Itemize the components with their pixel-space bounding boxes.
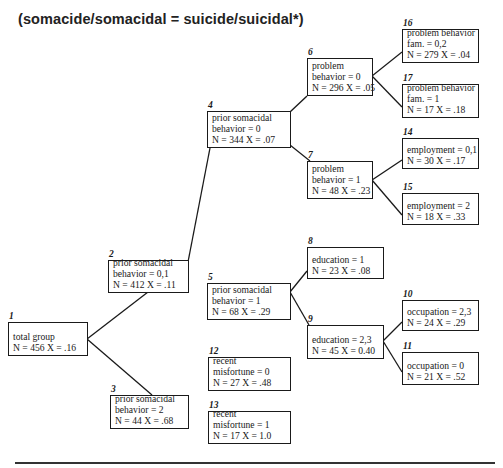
node-label: prior somacidal [115,393,184,404]
node-label: problem behavior [407,27,474,38]
edge-6-16 [372,52,402,76]
node-condition: behavior = 1 [312,174,368,185]
node-condition: occupation = 0 [407,360,474,371]
node-stats: N = 24 X = .29 [407,317,474,328]
edge-5-8 [290,271,307,292]
node-stats: N = 456 X = .16 [13,342,83,353]
node-condition: fam. = 0,2 [407,38,474,49]
node-stats: N = 296 X = .05 [312,82,368,93]
node-stats: N = 21 X = .52 [407,371,474,382]
node-number: 11 [403,341,412,351]
node-stats: N = 48 X = .23 [312,185,368,196]
node-stats: N = 30 X = .17 [407,155,474,166]
edge-5-9 [290,292,309,325]
node-condition: behavior = 2 [115,404,184,415]
node-stats: N = 17 X = 1.0 [213,430,286,441]
node-number: 10 [403,289,413,299]
node-condition: employment = 0,1 [407,144,474,155]
node-number: 9 [308,314,313,324]
edge-2-5 [188,280,207,296]
edge-9-11 [383,341,402,372]
node-label: prior somacidal [113,257,184,268]
node-number: 4 [208,100,213,110]
node-number: 6 [308,47,313,57]
node-condition: education = 2,3 [312,334,379,345]
bottom-rule [15,462,495,464]
node-stats: N = 18 X = .33 [407,211,474,222]
edge-6-17 [372,76,402,107]
node-stats: N = 68 X = .29 [212,306,286,317]
node-condition: employment = 2 [407,200,474,211]
node-label: problem [312,163,368,174]
node-number: 15 [403,182,413,192]
node-number: 5 [208,272,213,282]
node-stats: N = 412 X = .11 [113,279,184,290]
edge-4-6 [290,96,307,112]
tree-edges [0,0,503,468]
edge-1-3 [87,339,152,395]
edge-7-15 [372,180,402,215]
edge-9-10 [383,322,402,341]
node-condition: misfortune = 0 [213,366,286,377]
edge-2-4 [188,148,210,262]
node-stats: N = 344 X = .07 [212,134,286,145]
node-label: prior somacidal [212,112,286,123]
node-stats: N = 27 X = .48 [213,377,286,388]
node-condition: behavior = 0,1 [113,268,184,279]
node-condition: education = 1 [312,254,379,265]
node-condition: behavior = 0 [212,123,286,134]
edge-7-14 [372,160,402,180]
node-condition: misfortune = 1 [213,419,286,430]
node-condition: behavior = 1 [212,295,286,306]
node-condition: occupation = 2,3 [407,306,474,317]
node-label: problem [312,60,368,71]
edge-4-7 [290,145,310,161]
node-stats: N = 44 X = .68 [115,415,184,426]
node-label: prior somacidal [212,284,286,295]
node-number: 1 [9,311,14,321]
node-stats: N = 279 X = .04 [407,49,474,60]
node-label: recent [213,355,286,366]
node-number: 7 [308,150,313,160]
node-label: recent [213,408,286,419]
node-label: problem behavior [407,82,474,93]
node-condition: behavior = 0 [312,71,368,82]
edge-1-2 [87,292,148,339]
node-stats: N = 17 X = .18 [407,104,474,115]
node-number: 8 [308,236,313,246]
node-label: total group [13,331,83,342]
node-condition: fam. = 1 [407,93,474,104]
node-number: 14 [403,127,413,137]
node-stats: N = 45 X = 0.40 [312,345,379,356]
node-stats: N = 23 X = .08 [312,265,379,276]
